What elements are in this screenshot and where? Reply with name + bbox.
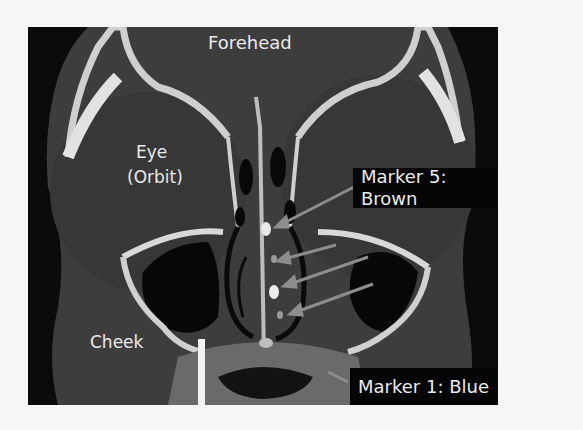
label-forehead: Forehead (208, 33, 292, 53)
marker-5-callout: Marker 5: Brown (353, 168, 498, 208)
label-cheek: Cheek (90, 332, 143, 352)
ct-scan-image: Forehead Eye (Orbit) Cheek Marker 5: Bro… (28, 27, 498, 405)
label-eye: Eye (136, 142, 167, 162)
label-orbit: (Orbit) (127, 167, 183, 187)
marker-1-callout: Marker 1: Blue (350, 368, 498, 405)
